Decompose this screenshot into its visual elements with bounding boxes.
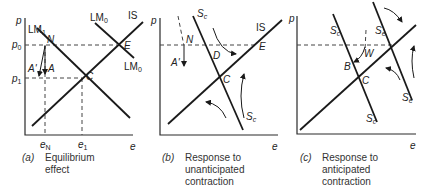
- panel-b-point-e-label: E: [259, 41, 266, 52]
- panel-c-x-axis-label: e: [410, 140, 416, 151]
- p1-tick-label: p1: [11, 73, 22, 85]
- panel-b-caption-line-1: Response to: [185, 152, 242, 163]
- panel-c: p e Sc Sc Se Se W B C (c) Response to an…: [288, 2, 416, 187]
- panel-c-point-w-label: W: [364, 48, 375, 59]
- panel-c-caption-line-1: Response to: [322, 152, 379, 163]
- panel-b: p e Sc Sc IS N A' D E C (b) Response to …: [150, 8, 282, 187]
- eN-tick-label: eN: [40, 139, 51, 151]
- point-c-label: C: [86, 71, 94, 82]
- panel-c-curved-arrow-top: [384, 8, 402, 22]
- panel-b-is-label: IS: [256, 22, 266, 33]
- panel-c-se-bottom-label: Se: [402, 92, 413, 104]
- panel-c-caption-line-2: anticipated: [322, 164, 370, 175]
- panel-a-y-axis-label: p: [15, 15, 22, 26]
- panel-b-sc-curve: [193, 16, 243, 130]
- panel-c-curved-arrow-right: [412, 46, 414, 78]
- panel-b-dashed-lm-line: [178, 16, 184, 46]
- panel-c-caption-tag: (c): [300, 152, 312, 163]
- point-a-label: A: [47, 63, 55, 74]
- lm0-bottom-label: LM0: [124, 61, 142, 73]
- panel-b-point-a-prime-label: A': [170, 57, 181, 68]
- panel-b-caption-line-3: contraction: [185, 176, 234, 187]
- panel-c-caption-line-3: contraction: [322, 176, 371, 187]
- figure-canvas: p e p0 p1 eN e1 LM1 LM0 LM0 IS N E C A A…: [0, 0, 432, 190]
- panel-b-point-c-label: C: [223, 74, 231, 85]
- e1-tick-label: e1: [78, 139, 88, 151]
- panel-b-caption-line-2: unanticipated: [185, 164, 245, 175]
- point-e-label: E: [124, 40, 131, 51]
- panel-b-curved-arrow-bottom-left: [206, 102, 226, 118]
- panel-c-point-c-label: C: [362, 75, 370, 86]
- panel-c-sc-bottom-label: Sc: [366, 113, 377, 125]
- panel-a-caption-tag: (a): [22, 152, 34, 163]
- panel-b-y-axis-label: p: [150, 15, 157, 26]
- panel-b-caption-tag: (b): [162, 152, 174, 163]
- panel-b-sc-top-label: Sc: [197, 8, 208, 20]
- panel-b-point-n-label: N: [186, 34, 194, 45]
- panel-c-se-top-label: Se: [375, 25, 386, 37]
- is-label: IS: [128, 10, 138, 21]
- panel-c-se-curve: [373, 2, 412, 100]
- panel-b-x-axis-label: e: [272, 141, 278, 152]
- panel-b-sc-bottom-label: Sc: [246, 111, 257, 123]
- arrow-n-to-a-prime: [39, 46, 45, 76]
- point-a-prime-label: A': [27, 63, 38, 74]
- lm1-label: LM1: [28, 24, 46, 36]
- panel-c-y-axis-label: p: [288, 13, 295, 24]
- panel-c-curved-arrow-middle: [386, 68, 400, 80]
- panel-a-caption-line-2: effect: [45, 164, 69, 175]
- point-n-label: N: [47, 34, 55, 45]
- panel-a: p e p0 p1 eN e1 LM1 LM0 LM0 IS N E C A A…: [11, 10, 143, 175]
- panel-c-point-b-label: B: [344, 61, 351, 72]
- panel-b-point-d-label: D: [213, 50, 220, 61]
- panel-a-caption-line-1: Equilibrium: [45, 152, 94, 163]
- panel-c-dashed-short-line: [365, 30, 366, 50]
- p0-tick-label: p0: [11, 39, 22, 51]
- panel-b-curved-arrow-right: [241, 74, 244, 118]
- lm0-top-label: LM0: [90, 12, 108, 24]
- panel-a-x-axis-label: e: [130, 141, 136, 152]
